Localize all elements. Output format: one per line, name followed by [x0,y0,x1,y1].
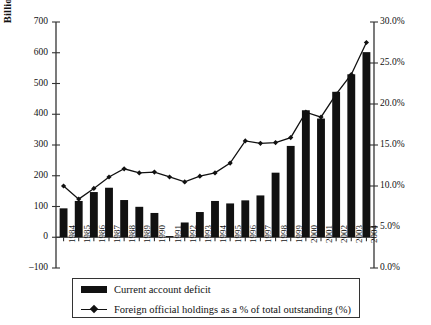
right-tick-label: 10.0% [380,181,420,190]
left-tick-label: 300 [14,140,48,149]
left-tick-label: –100 [14,263,48,272]
x-tick-label: 2001 [325,225,334,243]
plot-area [0,0,431,325]
left-tick-label: 700 [14,17,48,26]
legend-item-bar-label: Current account deficit [114,284,211,295]
x-tick-label: 1986 [98,225,107,243]
bar-series [60,52,371,237]
line-marker [152,169,157,174]
x-tick-label: 1984 [68,225,77,243]
x-tick-label: 2003 [355,225,364,243]
x-tick-label: 2000 [310,225,319,243]
line-marker [182,179,187,184]
x-tick-label: 1988 [128,225,137,243]
x-tick-label: 1990 [158,225,167,243]
legend-item-line-label: Foreign official holdings as a % of tota… [114,304,351,315]
legend-item-line: Foreign official holdings as a % of tota… [73,299,359,319]
line-marker [197,174,202,179]
left-tick-label: 200 [14,171,48,180]
bar-swatch-icon [81,286,107,293]
chart-figure: Billions of U.S. Dollars –10001002003004… [0,0,431,325]
bar [287,146,295,237]
x-tick-label: 1993 [204,225,213,243]
bar [302,110,310,237]
left-tick-label: 600 [14,48,48,57]
x-tick-label: 1998 [280,225,289,243]
x-tick-label: 1994 [219,225,228,243]
x-tick-label: 2002 [340,225,349,243]
x-tick-label: 2004 [370,225,379,243]
right-tick-label: 15.0% [380,140,420,149]
x-tick-label: 1987 [113,225,122,243]
left-tick-label: 100 [14,202,48,211]
right-tick-label: 25.0% [380,58,420,67]
line-marker [258,141,263,146]
line-marker [273,140,278,145]
line-marker [167,174,172,179]
left-tick-label: 500 [14,79,48,88]
right-tick-label: 5.0% [380,222,420,231]
bar [347,74,355,237]
x-tick-label: 1999 [295,225,304,243]
x-tick-label: 1995 [234,225,243,243]
line-diamond-swatch-icon [81,305,107,314]
legend-item-bar: Current account deficit [73,279,359,299]
right-tick-label: 0.0% [380,263,420,272]
x-tick-label: 1989 [143,225,152,243]
right-tick-label: 30.0% [380,17,420,26]
bar [332,92,340,237]
line-marker [122,166,127,171]
x-tick-label: 1985 [83,225,92,243]
line-marker [137,170,142,175]
right-tick-label: 20.0% [380,99,420,108]
line-marker [364,40,369,45]
bar [362,52,370,237]
x-tick-label: 1996 [249,225,258,243]
x-tick-label: 1997 [264,225,273,243]
left-tick-label: 0 [14,232,48,241]
left-tick-label: 400 [14,109,48,118]
x-tick-label: 1992 [189,225,198,243]
x-tick-label: 1991 [174,225,183,243]
bar [317,119,325,238]
legend: Current account deficit Foreign official… [72,278,360,318]
